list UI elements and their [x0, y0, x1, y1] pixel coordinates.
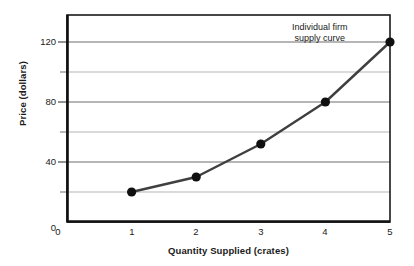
curve-annotation: Individual firm supply curve	[292, 22, 348, 44]
x-tick-label-0: 0	[48, 226, 68, 237]
y-tick-label-40: 40	[26, 156, 56, 167]
x-tick-label-2: 2	[186, 226, 206, 237]
y-tick-label-120: 120	[26, 36, 56, 47]
y-axis-title: Price (dollars)	[17, 34, 28, 154]
data-point-4	[321, 97, 330, 106]
plot-background	[67, 15, 390, 222]
data-point-1	[127, 187, 136, 196]
data-point-2	[192, 172, 201, 181]
data-point-3	[256, 139, 265, 148]
supply-curve-chart: 120 80 40 0 0 1 2 3 4 5 Price (dollars) …	[0, 0, 414, 266]
x-tick-label-1: 1	[122, 226, 142, 237]
curve-annotation-line1: Individual firm	[292, 22, 348, 33]
x-tick-label-3: 3	[251, 226, 271, 237]
x-axis-title: Quantity Supplied (crates)	[67, 245, 390, 256]
y-tick-label-80: 80	[26, 96, 56, 107]
x-tick-label-5: 5	[380, 226, 400, 237]
data-point-5	[385, 37, 394, 46]
curve-annotation-line2: supply curve	[292, 33, 348, 44]
x-tick-label-4: 4	[315, 226, 335, 237]
